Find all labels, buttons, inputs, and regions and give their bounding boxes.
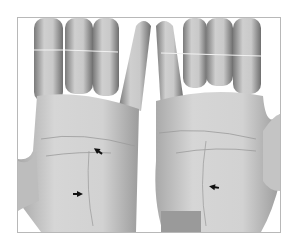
left-hand bbox=[18, 18, 151, 232]
photo-frame bbox=[17, 17, 281, 233]
palms-photo bbox=[18, 18, 280, 232]
right-hand bbox=[155, 18, 280, 232]
